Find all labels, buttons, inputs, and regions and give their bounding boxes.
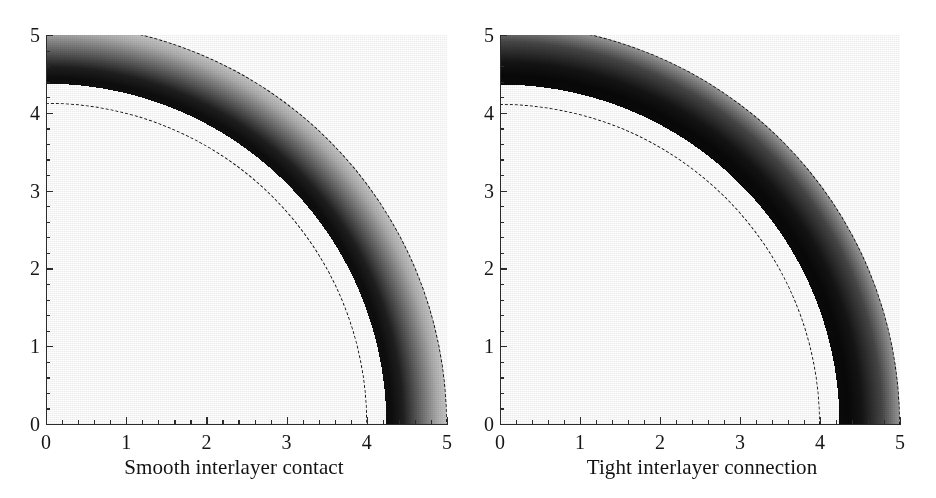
y-tick-minor: [500, 222, 504, 223]
y-tick-minor: [500, 253, 504, 254]
x-tick-label: 4: [807, 432, 833, 452]
y-tick-minor: [500, 175, 504, 176]
y-tick-minor: [500, 82, 504, 83]
y-axis-line: [500, 35, 501, 425]
x-tick-label: 0: [487, 432, 513, 452]
x-tick-minor: [692, 420, 693, 424]
y-tick-minor: [500, 128, 504, 129]
y-tick-minor: [500, 144, 504, 145]
x-tick-minor: [868, 420, 869, 424]
y-tick-minor: [500, 331, 504, 332]
figure-two-panel-contour: 012345012345 Smooth interlayer contact 0…: [0, 0, 936, 498]
y-tick-minor: [500, 362, 504, 363]
y-tick-minor: [500, 315, 504, 316]
x-tick-label: 2: [647, 432, 673, 452]
x-tick-minor: [724, 420, 725, 424]
x-tick-label: 5: [887, 432, 913, 452]
y-tick-label: 5: [468, 25, 494, 45]
caption-right: Tight interlayer connection: [468, 455, 936, 480]
x-tick-minor: [548, 420, 549, 424]
x-tick-major: [660, 417, 661, 424]
y-tick-minor: [500, 377, 504, 378]
x-axis-line: [500, 424, 901, 425]
y-tick-major: [500, 346, 507, 347]
x-tick-minor: [676, 420, 677, 424]
x-tick-minor: [788, 420, 789, 424]
y-tick-minor: [500, 66, 504, 67]
panel-tight-interlayer-connection: 012345012345 Tight interlayer connection: [468, 0, 936, 498]
y-tick-label: 3: [468, 181, 494, 201]
y-tick-minor: [500, 284, 504, 285]
y-tick-minor: [500, 97, 504, 98]
x-tick-minor: [612, 420, 613, 424]
y-tick-minor: [500, 408, 504, 409]
x-tick-major: [820, 417, 821, 424]
x-tick-label: 3: [727, 432, 753, 452]
x-tick-major: [740, 417, 741, 424]
y-tick-major: [500, 268, 507, 269]
x-tick-minor: [852, 420, 853, 424]
x-tick-minor: [708, 420, 709, 424]
x-tick-label: 1: [567, 432, 593, 452]
y-tick-major: [500, 191, 507, 192]
x-tick-minor: [532, 420, 533, 424]
x-tick-minor: [564, 420, 565, 424]
y-tick-label: 4: [468, 103, 494, 123]
x-tick-minor: [516, 420, 517, 424]
y-tick-minor: [500, 237, 504, 238]
y-tick-minor: [500, 51, 504, 52]
y-tick-minor: [500, 300, 504, 301]
y-tick-major: [500, 424, 507, 425]
x-tick-minor: [756, 420, 757, 424]
x-tick-minor: [836, 420, 837, 424]
x-tick-minor: [884, 420, 885, 424]
x-tick-minor: [644, 420, 645, 424]
x-tick-major: [580, 417, 581, 424]
y-tick-label: 2: [468, 258, 494, 278]
x-tick-minor: [804, 420, 805, 424]
y-tick-label: 0: [468, 414, 494, 434]
x-tick-major: [900, 417, 901, 424]
axes-right: 012345012345: [0, 0, 936, 498]
y-tick-minor: [500, 206, 504, 207]
y-tick-major: [500, 35, 507, 36]
y-tick-minor: [500, 159, 504, 160]
y-tick-label: 1: [468, 336, 494, 356]
x-tick-minor: [628, 420, 629, 424]
y-tick-major: [500, 113, 507, 114]
x-tick-minor: [596, 420, 597, 424]
y-tick-minor: [500, 393, 504, 394]
x-tick-major: [500, 417, 501, 424]
x-tick-minor: [772, 420, 773, 424]
